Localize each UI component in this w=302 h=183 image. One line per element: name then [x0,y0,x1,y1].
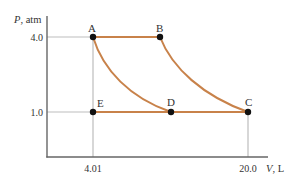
x-tick-label-20: 20.0 [239,163,257,174]
y-tick-label-1: 1.0 [31,107,44,118]
point-d [168,109,174,115]
process-curve-ad [93,37,171,112]
x-axis-label: V, L [266,163,284,174]
point-label-d: D [167,96,175,108]
point-label-b: B [156,22,163,34]
point-e [90,109,96,115]
y-axis-label: P, atm [13,14,41,25]
y-axis-unit: , atm [20,14,41,25]
point-a [90,34,96,40]
point-c [245,109,251,115]
point-label-e: E [97,97,104,109]
pv-diagram: A B E D C 4.0 1.0 4.01 20.0 P, atm V, L [0,0,302,183]
point-label-c: C [245,96,252,108]
point-label-a: A [88,22,96,34]
x-tick-label-401: 4.01 [84,163,102,174]
point-b [157,34,163,40]
y-tick-label-4: 4.0 [31,32,44,43]
x-axis-unit: , L [272,163,284,174]
